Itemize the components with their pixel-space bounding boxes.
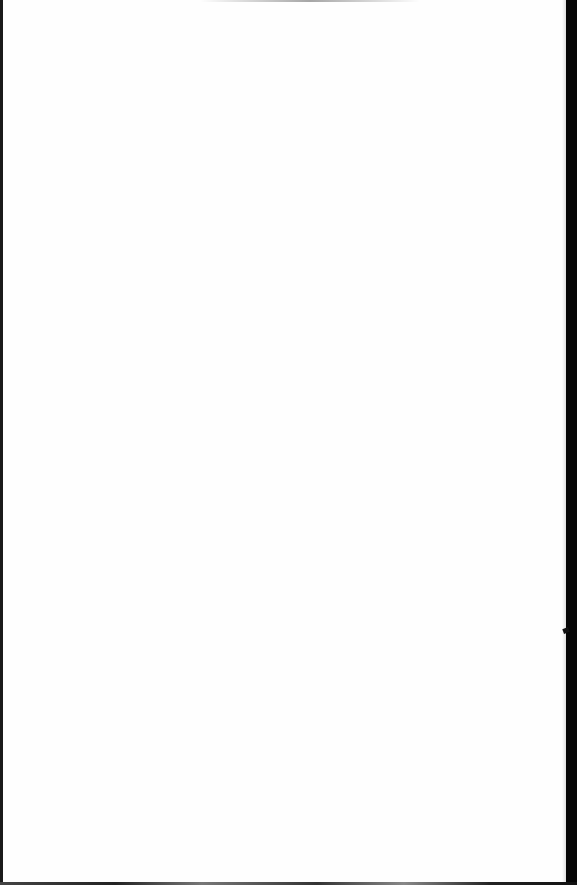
blank-scanned-page bbox=[0, 0, 577, 885]
scan-shadow-top bbox=[200, 0, 420, 2]
scan-edge-left bbox=[0, 0, 3, 885]
scan-edge-right bbox=[566, 0, 577, 885]
